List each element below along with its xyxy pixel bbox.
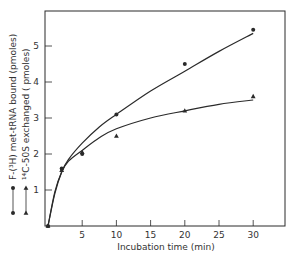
x-axis-ticks: 51015202530 <box>79 220 259 240</box>
met-trna-curve <box>48 33 253 226</box>
x-tick-label: 20 <box>179 230 191 240</box>
x-tick-label: 5 <box>79 230 85 240</box>
chart: 51015202530 12345 Incubation time (min) … <box>0 0 292 257</box>
triangle-point <box>114 133 119 137</box>
data-points <box>46 28 256 228</box>
circle-point <box>183 62 187 66</box>
triangle-point <box>251 94 256 98</box>
y-tick-label: 3 <box>33 113 39 123</box>
x-tick-label: 30 <box>247 230 259 240</box>
y-tick-label: 5 <box>33 41 39 51</box>
plot-frame <box>45 11 285 226</box>
circle-point <box>251 28 255 32</box>
legend-circle-marker <box>11 186 15 190</box>
legend-item-met-trna: F-(³H) met-tRNA bound (pmoles) <box>8 34 18 215</box>
y-tick-label: 1 <box>33 185 39 195</box>
legend-label: ¹⁴C-50S exchanged ( pmoles) <box>21 48 31 180</box>
y-tick-label: 2 <box>33 149 39 159</box>
plot-border <box>45 11 285 226</box>
legend-triangle-marker <box>24 185 29 189</box>
fit-curves <box>48 33 253 226</box>
x-tick-label: 10 <box>111 230 123 240</box>
x-axis-title: Incubation time (min) <box>117 242 215 252</box>
circle-point <box>114 112 118 116</box>
legend-label: F-(³H) met-tRNA bound (pmoles) <box>8 34 18 180</box>
x-tick-label: 25 <box>213 230 224 240</box>
legend-item-50s-exchange: ¹⁴C-50S exchanged ( pmoles) <box>21 48 31 214</box>
legend: F-(³H) met-tRNA bound (pmoles)¹⁴C-50S ex… <box>8 34 31 215</box>
y-axis-ticks: 12345 <box>33 41 52 195</box>
y-tick-label: 4 <box>33 77 39 87</box>
legend-triangle-marker <box>24 210 29 214</box>
exchange-50s-curve <box>48 100 253 226</box>
legend-circle-marker <box>11 211 15 215</box>
x-tick-label: 15 <box>145 230 156 240</box>
